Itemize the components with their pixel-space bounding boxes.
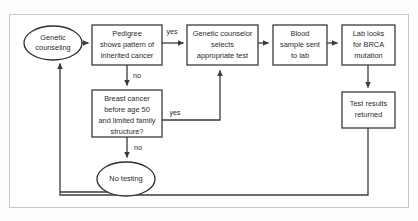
pedigree-line-2: shows pattern of: [100, 40, 155, 49]
lab-looks-line-1: Lab looks: [353, 29, 385, 38]
test-results-line-1: Test results: [350, 99, 388, 108]
breast-cancer-line-3: and limited family: [98, 116, 155, 125]
blood-sample-line-2: sample sent: [280, 40, 320, 49]
genetic-counseling-line-2: counseling: [35, 43, 70, 52]
pedigree-line-3: inherited cancer: [101, 51, 154, 60]
node-no-testing[interactable]: No testing: [97, 162, 155, 196]
edge-label-breast-no: no: [134, 144, 142, 152]
blood-sample-line-1: Blood: [291, 29, 310, 38]
breast-cancer-line-1: Breast cancer: [104, 94, 150, 103]
lab-looks-line-3: mutation: [354, 51, 382, 60]
breast-cancer-line-2: before age 50: [104, 105, 150, 114]
counselor-selects-line-2: selects: [211, 40, 234, 49]
node-breast-cancer[interactable]: Breast cancer before age 50 and limited …: [92, 90, 162, 137]
edge-label-breast-yes: yes: [169, 109, 180, 117]
counselor-selects-line-3: appropriate test: [197, 51, 248, 60]
edge-label-pedigree-yes: yes: [166, 28, 177, 36]
breast-cancer-line-4: structure?: [111, 127, 144, 136]
counselor-selects-line-1: Genetic counselor: [193, 29, 253, 38]
blood-sample-line-3: to lab: [291, 51, 309, 60]
node-counselor-selects[interactable]: Genetic counselor selects appropriate te…: [187, 25, 258, 65]
node-blood-sample[interactable]: Blood sample sent to lab: [273, 25, 327, 65]
test-results-line-2: returned: [355, 110, 383, 119]
pedigree-line-1: Pedigree: [112, 29, 142, 38]
no-testing-line-1: No testing: [109, 174, 142, 183]
node-test-results[interactable]: Test results returned: [342, 92, 395, 128]
edge-label-pedigree-no: no: [133, 72, 141, 80]
genetic-counseling-line-1: Genetic: [40, 33, 66, 42]
node-genetic-counseling[interactable]: Genetic counseling: [24, 26, 82, 60]
lab-looks-line-2: for BRCA: [353, 40, 384, 49]
flowchart-figure: Genetic counseling Pedigree shows patter…: [0, 0, 418, 221]
flowchart-canvas: Genetic counseling Pedigree shows patter…: [0, 0, 418, 221]
node-lab-looks[interactable]: Lab looks for BRCA mutation: [342, 25, 395, 65]
node-pedigree[interactable]: Pedigree shows pattern of inherited canc…: [92, 25, 162, 65]
